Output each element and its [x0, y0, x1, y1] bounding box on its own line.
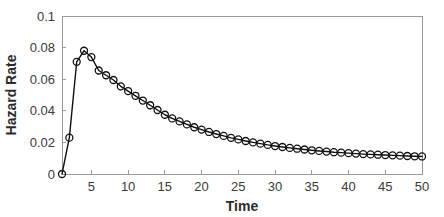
y-tick-label: 0.02: [30, 135, 55, 150]
x-tick-label: 25: [231, 179, 245, 194]
x-axis-tick-labels: 5101520253035404550: [88, 179, 429, 194]
x-axis-title: Time: [226, 198, 259, 214]
x-tick-label: 30: [268, 179, 282, 194]
x-tick-label: 20: [194, 179, 208, 194]
x-tick-label: 40: [341, 179, 355, 194]
hazard-rate-chart-figure: 00.020.040.060.080.1 5101520253035404550…: [0, 0, 444, 217]
x-tick-label: 15: [158, 179, 172, 194]
chart-canvas: 00.020.040.060.080.1 5101520253035404550…: [0, 0, 444, 217]
y-axis-title: Hazard Rate: [3, 54, 19, 135]
axis-tick-marks: [62, 16, 422, 174]
y-tick-label: 0.1: [37, 9, 55, 24]
x-tick-label: 35: [305, 179, 319, 194]
y-tick-label: 0.08: [30, 40, 55, 55]
y-tick-label: 0: [48, 167, 55, 182]
y-tick-label: 0.06: [30, 72, 55, 87]
x-tick-label: 5: [88, 179, 95, 194]
hazard-rate-markers: [59, 47, 426, 177]
plot-frame: [62, 16, 422, 174]
x-tick-label: 50: [415, 179, 429, 194]
hazard-rate-line: [62, 51, 422, 174]
x-tick-label: 10: [121, 179, 135, 194]
y-tick-label: 0.04: [30, 103, 55, 118]
x-tick-label: 45: [378, 179, 392, 194]
y-axis-tick-labels: 00.020.040.060.080.1: [30, 9, 55, 182]
